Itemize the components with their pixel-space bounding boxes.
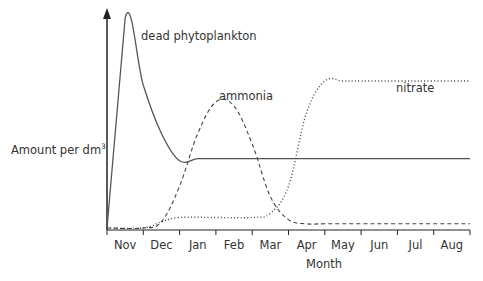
label-ammonia: ammonia xyxy=(219,89,273,103)
label-nitrate: nitrate xyxy=(396,81,434,95)
x-tick-label: Apr xyxy=(297,238,317,252)
x-tick-label: Nov xyxy=(114,238,137,252)
x-axis-tick-labels: NovDecJanFebMarAprMayJunJulAug xyxy=(114,238,463,252)
y-axis-label: Amount per dm3 xyxy=(11,142,106,157)
series-nitrate xyxy=(107,78,470,228)
x-axis-label: Month xyxy=(306,257,342,271)
x-axis-ticks xyxy=(107,230,470,235)
label-dead-phytoplankton: dead phytoplankton xyxy=(141,29,257,43)
x-tick-label: Jan xyxy=(188,238,207,252)
chart: NovDecJanFebMarAprMayJunJulAug dead phyt… xyxy=(0,0,483,281)
x-tick-label: Feb xyxy=(224,238,244,252)
x-tick-label: Jun xyxy=(369,238,388,252)
x-tick-label: May xyxy=(331,238,355,252)
x-tick-label: Dec xyxy=(150,238,172,252)
x-tick-label: Mar xyxy=(259,238,281,252)
series-dead-phytoplankton xyxy=(107,13,470,228)
x-tick-label: Aug xyxy=(441,238,463,252)
y-axis-arrow-icon xyxy=(103,8,111,19)
x-tick-label: Jul xyxy=(408,238,423,252)
series-ammonia xyxy=(107,99,470,228)
